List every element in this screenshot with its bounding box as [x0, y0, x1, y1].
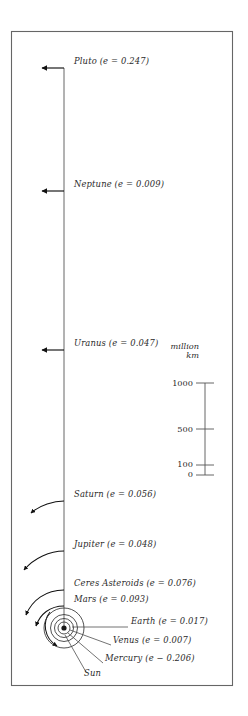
scale-tick-label-0: 0 — [159, 469, 193, 479]
scale-tick-label-100: 100 — [159, 459, 193, 469]
leader-line-mercury — [68, 633, 103, 663]
label-jupiter: Jupiter (e = 0.048) — [74, 539, 156, 549]
label-earth: Earth (e = 0.017) — [131, 616, 208, 626]
solar-system-orbit-diagram — [0, 0, 248, 716]
label-neptune: Neptune (e = 0.009) — [74, 179, 164, 189]
label-sun: Sun — [84, 668, 101, 678]
pointer-curve-ceres — [26, 590, 64, 615]
label-saturn: Saturn (e = 0.056) — [74, 489, 156, 499]
scale-unit-line-2: km — [153, 351, 199, 360]
scale-unit-label: million km — [153, 342, 199, 360]
label-pluto: Pluto (e = 0.247) — [74, 56, 149, 66]
scale-tick-label-1000: 1000 — [159, 378, 193, 388]
label-mars: Mars (e = 0.093) — [74, 594, 149, 604]
scale-tick-label-500: 500 — [159, 424, 193, 434]
sun-marker — [61, 625, 66, 630]
pointer-curve-jupiter — [24, 551, 64, 570]
leader-line-venus — [70, 630, 111, 645]
label-mercury: Mercury (e − 0.206) — [105, 653, 195, 663]
pointer-curve-mars — [36, 606, 64, 626]
label-venus: Venus (e = 0.007) — [113, 635, 191, 645]
pointer-curve-saturn — [31, 501, 64, 513]
leader-line-sun — [65, 635, 86, 672]
label-ceres-asteroids: Ceres Asteroids (e = 0.076) — [74, 578, 196, 588]
label-uranus: Uranus (e = 0.047) — [74, 338, 158, 348]
